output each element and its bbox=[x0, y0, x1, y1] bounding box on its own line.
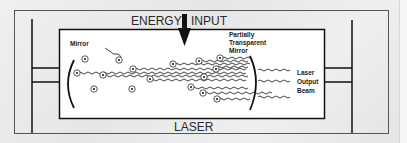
input-label: INPUT bbox=[191, 14, 228, 28]
partial-mirror-label-3: Mirror bbox=[229, 47, 248, 54]
laser-label: LASER bbox=[174, 120, 214, 134]
output-label-3: Beam bbox=[297, 87, 315, 94]
output-label-1: Laser bbox=[297, 69, 315, 76]
mirror-label: Mirror bbox=[70, 40, 89, 47]
energy-label: ENERGY bbox=[131, 14, 182, 28]
partial-mirror-label-1: Partially bbox=[229, 31, 255, 39]
partial-mirror-label-2: Transparent bbox=[229, 39, 267, 47]
output-label-2: Output bbox=[297, 78, 319, 86]
